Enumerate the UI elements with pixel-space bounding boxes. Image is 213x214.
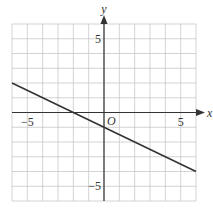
x-axis-label: x <box>206 106 213 120</box>
coordinate-plane: x y O −5 5 5 −5 <box>0 0 213 214</box>
origin-label: O <box>107 114 116 128</box>
y-tick-label-5: 5 <box>95 32 101 46</box>
y-tick-label-neg5: −5 <box>88 179 101 193</box>
axes <box>12 15 205 201</box>
x-tick-label-5: 5 <box>178 115 184 129</box>
x-tick-label-neg5: −5 <box>21 115 34 129</box>
y-axis-label: y <box>100 2 107 16</box>
